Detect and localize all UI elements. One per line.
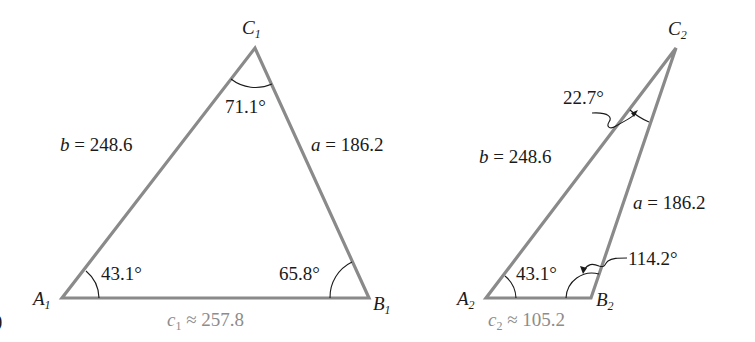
angle-label-c2: 22.7° [563, 87, 604, 108]
angle-arc-a2 [505, 276, 516, 298]
angle-label-c1: 71.1° [225, 96, 266, 117]
triangle-1-outline [62, 48, 369, 298]
side-label-a2: a = 186.2 [633, 192, 705, 213]
triangle-1: C1 A1 B1 b = 248.6 a = 186.2 c1 ≈ 257.8 … [31, 17, 391, 333]
side-label-c2: c2 ≈ 105.2 [488, 309, 565, 333]
vertex-label-b2: B2 [596, 289, 614, 313]
triangle-diagram: ) C1 A1 B1 b = 248.6 a = 186.2 c1 ≈ 257.… [0, 0, 755, 342]
angle-label-b1: 65.8° [279, 263, 320, 284]
angle-arc-a1 [86, 271, 99, 298]
side-label-b2: b = 248.6 [479, 146, 551, 167]
vertex-label-b1: B1 [373, 293, 391, 317]
angle-arc-c1 [231, 79, 272, 87]
side-label-b1: b = 248.6 [60, 134, 132, 155]
angle-arc-b1 [330, 262, 352, 298]
angle-label-a1: 43.1° [101, 263, 142, 284]
part-marker: ) [0, 310, 2, 332]
side-label-c1: c1 ≈ 257.8 [167, 309, 244, 333]
side-label-a1: a = 186.2 [311, 134, 383, 155]
vertex-label-a1: A1 [31, 288, 51, 312]
vertex-label-c2: C2 [668, 18, 687, 42]
vertex-label-c1: C1 [242, 17, 261, 41]
angle-label-b2: 114.2° [628, 248, 678, 269]
angle-label-a2: 43.1° [516, 263, 557, 284]
vertex-label-a2: A2 [455, 288, 475, 312]
triangle-2: C2 A2 B2 b = 248.6 a = 186.2 c2 ≈ 105.2 … [455, 18, 705, 333]
callout-line-c2 [592, 113, 636, 128]
